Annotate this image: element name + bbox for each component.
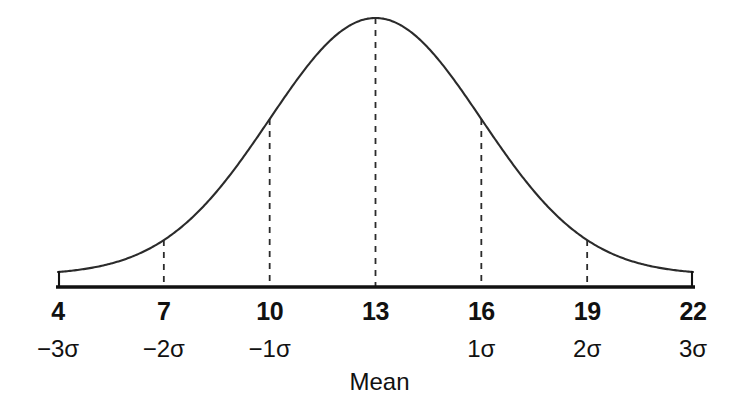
x-tick-label-16: 16 — [468, 299, 495, 324]
x-tick-label-4: 4 — [51, 299, 64, 324]
sigma-label-19: 2σ — [573, 337, 601, 361]
x-tick-label-22: 22 — [680, 299, 707, 324]
x-tick-label-7: 7 — [157, 299, 170, 324]
sigma-label-4: −3σ — [37, 337, 79, 361]
sigma-label-16: 1σ — [467, 337, 495, 361]
bell-curve-plot — [0, 0, 751, 406]
x-tick-label-13: 13 — [362, 299, 389, 324]
x-tick-label-10: 10 — [256, 299, 283, 324]
sigma-label-22: 3σ — [679, 337, 707, 361]
sigma-label-7: −2σ — [143, 337, 185, 361]
x-tick-label-19: 19 — [574, 299, 601, 324]
sigma-dashed-lines — [164, 18, 587, 286]
sigma-label-10: −1σ — [249, 337, 291, 361]
normal-distribution-figure: 471013161922 −3σ−2σ−1σ1σ2σ3σ Mean — [0, 0, 751, 406]
mean-axis-title: Mean — [349, 370, 409, 394]
